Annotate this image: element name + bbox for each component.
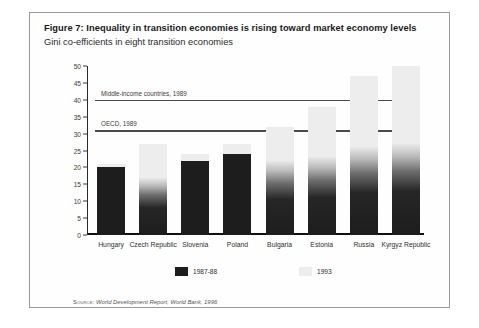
figure-subtitle: Gini co-efficients in eight transition e… (44, 36, 439, 49)
legend-label-1987-88: 1987-88 (193, 268, 217, 275)
y-axis-tick-mark-5 (83, 218, 87, 219)
y-axis-tick-mark-15 (83, 184, 87, 185)
y-axis-tick-mark-0 (83, 235, 87, 236)
y-axis-tick-mark-25 (83, 150, 87, 151)
reference-line-label-1: OECD, 1989 (101, 120, 137, 127)
bar-kyrgyz-republic (392, 66, 420, 235)
figure-title: Figure 7: Inequality in transition econo… (44, 22, 439, 34)
bar-estonia (308, 107, 336, 235)
chart-plot-area: 05101520253035404550 Middle-income count… (87, 66, 424, 235)
y-axis-tick-mark-45 (83, 82, 87, 83)
reference-line-label-0: Middle-income countries, 1989 (101, 90, 187, 97)
bar-segment-1987-88 (350, 147, 378, 235)
figure-card: Figure 7: Inequality in transition econo… (29, 12, 450, 308)
bar-segment-1987-88 (139, 178, 167, 235)
y-axis-tick-mark-10 (83, 201, 87, 202)
y-axis-tick-mark-50 (83, 66, 87, 67)
bar-segment-1987-88 (392, 144, 420, 235)
x-axis-label-kyrgyz-republic: Kyrgyz Republic (375, 241, 437, 249)
bar-poland (223, 144, 251, 235)
bar-segment-1987-88 (308, 157, 336, 235)
title-block: Figure 7: Inequality in transition econo… (44, 22, 439, 49)
bar-hungary (97, 164, 125, 235)
legend-swatch-1993 (299, 267, 312, 276)
y-axis-tick-mark-20 (83, 167, 87, 168)
legend-label-1993: 1993 (317, 268, 332, 275)
bar-russia (350, 76, 378, 235)
bar-czech-republic (139, 144, 167, 235)
source-label: Source: (73, 299, 94, 305)
source-note: Source: World Development Report, World … (73, 299, 217, 305)
bar-bulgaria (266, 127, 294, 235)
bar-segment-1987-88 (181, 161, 209, 235)
legend-swatch-1987-88 (175, 267, 188, 276)
legend-item-1987-88: 1987-88 (175, 267, 217, 276)
source-text: World Development Report, World Bank, 19… (96, 299, 217, 305)
bar-segment-1987-88 (97, 167, 125, 235)
y-axis-tick-mark-40 (83, 99, 87, 100)
bar-segment-1987-88 (223, 154, 251, 235)
y-axis-tick-mark-30 (83, 133, 87, 134)
legend-item-1993: 1993 (299, 267, 332, 276)
bar-segment-1987-88 (266, 161, 294, 235)
y-axis-tick-mark-35 (83, 116, 87, 117)
chart-legend: 1987-881993 (87, 267, 424, 279)
bar-slovenia (181, 154, 209, 235)
